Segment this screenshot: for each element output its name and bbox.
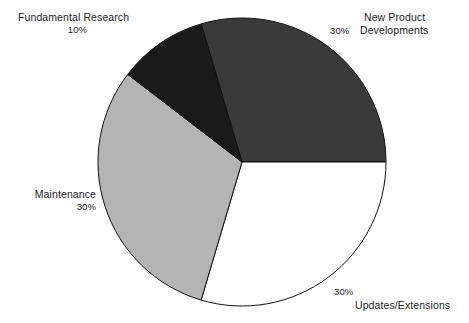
slice-label-new-product-text: Developments — [360, 24, 428, 36]
slice-percent-fundamental-research: 10% — [18, 24, 129, 37]
slice-percent-maintenance: 30% — [14, 201, 96, 214]
slice-label-new-product-developments: New Product 30%Developments — [330, 11, 428, 37]
pie-slice-group — [98, 18, 386, 306]
slice-label-maintenance-text: Maintenance — [14, 188, 96, 201]
slice-label-new-product-line1: New Product — [330, 11, 428, 24]
slice-percent-updates-extensions: 30% — [334, 286, 450, 299]
pie-chart — [0, 0, 469, 323]
slice-percent-new-product: 30% — [330, 25, 360, 38]
slice-label-fundamental-research-text: Fundamental Research — [18, 11, 129, 24]
slice-label-fundamental-research: Fundamental Research 10% — [18, 11, 129, 36]
slice-label-new-product-line2: 30%Developments — [330, 24, 428, 38]
slice-label-maintenance: Maintenance 30% — [14, 188, 96, 213]
pie-chart-page: Fundamental Research 10% New Product 30%… — [0, 0, 469, 323]
slice-label-updates-extensions: 30% Updates/Extensions — [334, 286, 450, 311]
slice-label-updates-extensions-text: Updates/Extensions — [334, 299, 450, 312]
